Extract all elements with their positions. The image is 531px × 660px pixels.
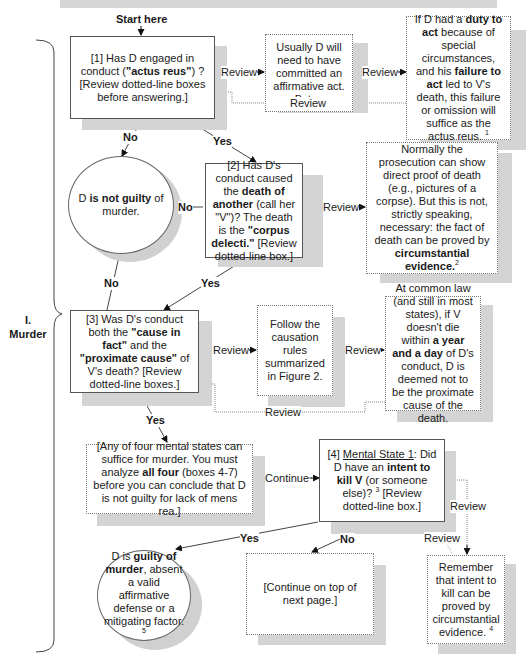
- note-intent-circumstantial: Remember that intent to kill can be prov…: [427, 555, 505, 644]
- edge-label-review: Review: [323, 201, 359, 214]
- edge-label-no: No: [123, 131, 138, 144]
- edge-label-no: No: [178, 201, 193, 214]
- edge-label-review: Review: [450, 500, 486, 513]
- start-label: Start here: [116, 13, 167, 26]
- edge-label-yes: Yes: [213, 135, 232, 148]
- note-year-and-a-day: At common law (and still in most states)…: [385, 296, 481, 411]
- outcome-guilty-of-murder: D is guilty of murder, absent a valid af…: [97, 550, 191, 641]
- edge-label-continue: Continue: [265, 472, 309, 485]
- question-1-actus-reus[interactable]: [1] Has D engaged in conduct ("actus reu…: [70, 36, 215, 119]
- edge-label-yes: Yes: [146, 414, 165, 427]
- note-causation-rules: Follow the causation rules summarized in…: [257, 305, 333, 396]
- question-4-intent-to-kill[interactable]: [4] Mental State 1: Did D have an intent…: [319, 439, 445, 522]
- note-duty-to-act: If D had a duty to act because of specia…: [406, 16, 511, 140]
- edge-label-yes: Yes: [240, 532, 259, 545]
- question-3-causation[interactable]: [3] Was D's conduct both the "cause in f…: [70, 310, 199, 393]
- note-corpus-delecti: Normally the prosecution can show direct…: [366, 142, 498, 274]
- edge-label-review: Review: [221, 66, 257, 79]
- note-four-mental-states: [Any of four mental states can suffice f…: [86, 444, 253, 514]
- edge-label-review: Review: [345, 344, 381, 357]
- edge-label-review: Review: [362, 66, 398, 79]
- question-2-death[interactable]: [2] Has D's conduct caused the death of …: [205, 163, 303, 258]
- edge-label-yes: Yes: [201, 277, 220, 290]
- continue-next-page[interactable]: [Continue on top of next page.]: [246, 553, 374, 635]
- outcome-not-guilty: D is not guilty of murder.: [68, 156, 174, 254]
- edge-label-no: No: [104, 277, 119, 290]
- edge-label-review: Review: [265, 406, 301, 419]
- edge-label-review: Review: [290, 97, 326, 110]
- edge-label-review: Review: [424, 532, 460, 545]
- edge-label-review: Review: [213, 344, 249, 357]
- edge-label-no: No: [340, 533, 355, 546]
